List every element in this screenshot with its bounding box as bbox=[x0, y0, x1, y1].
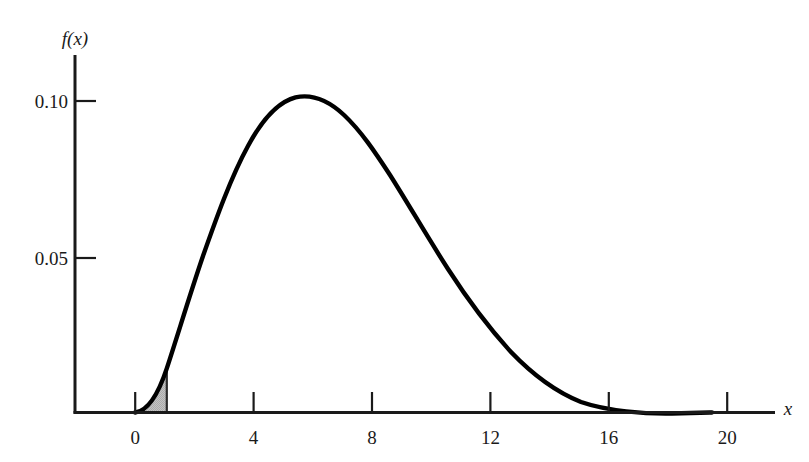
x-axis-title: x bbox=[783, 398, 793, 419]
y-axis-title: f(x) bbox=[62, 28, 88, 50]
chart-background bbox=[0, 0, 809, 462]
x-tick-label-3: 12 bbox=[481, 427, 500, 448]
figure-container: 0.10 0.05 0 4 8 12 16 20 f(x) x bbox=[0, 0, 809, 462]
x-tick-label-1: 4 bbox=[249, 427, 259, 448]
x-tick-label-5: 20 bbox=[718, 427, 737, 448]
density-curve-chart: 0.10 0.05 0 4 8 12 16 20 f(x) x bbox=[0, 0, 809, 462]
x-tick-label-0: 0 bbox=[130, 427, 140, 448]
x-tick-label-2: 8 bbox=[367, 427, 377, 448]
x-tick-label-4: 16 bbox=[599, 427, 618, 448]
y-tick-label-1: 0.05 bbox=[35, 248, 68, 269]
y-tick-label-0: 0.10 bbox=[35, 91, 68, 112]
